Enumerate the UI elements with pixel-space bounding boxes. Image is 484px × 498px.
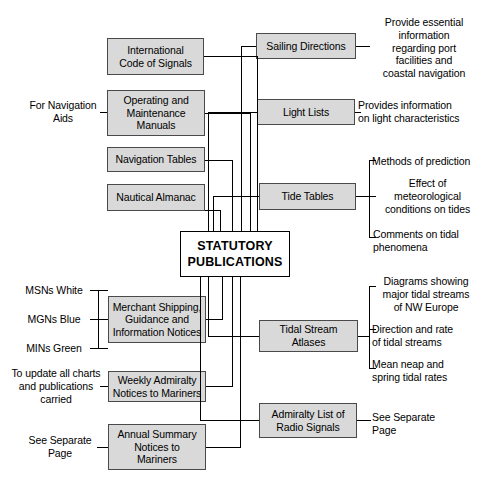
connector-lightlists-stub — [208, 112, 257, 113]
connector-sailing-stub — [241, 46, 256, 47]
note-tidal-stream-3: Mean neap and spring tidal rates — [372, 358, 484, 384]
connector-tt-note-bracket — [369, 160, 370, 237]
note-radio-signals: See Separate Page — [372, 411, 472, 437]
note-tide-tables-3: Comments on tidal phenomena — [373, 228, 484, 254]
node-tidal-stream-atlases[interactable]: Tidal Stream Atlases — [259, 320, 358, 352]
connector-omm-drop — [250, 113, 251, 231]
note-for-navigation-aids: For Navigation Aids — [22, 99, 104, 125]
connector-nav-aids — [100, 112, 107, 113]
connector-tidetables-stub — [213, 196, 259, 197]
connector-almanac-drop — [220, 210, 221, 231]
connector-annual-rise — [240, 277, 241, 447]
connector-tidalstream-rise — [208, 277, 209, 336]
connector-ics-stub — [204, 56, 258, 57]
node-nautical-almanac[interactable]: Nautical Almanac — [107, 184, 205, 211]
note-tide-tables-2: Effect of meteorological conditions on t… — [371, 177, 484, 215]
connector-notices-bracket — [98, 290, 99, 349]
connector-annual-stub — [206, 447, 241, 448]
note-mgns-blue: MGNs Blue — [18, 313, 90, 326]
connector-tsa-note-2 — [369, 329, 376, 330]
connector-mins-green — [90, 348, 108, 349]
connector-sd-note — [356, 46, 370, 47]
connector-ics-drop — [257, 56, 258, 231]
node-tide-tables[interactable]: Tide Tables — [259, 183, 356, 210]
connector-navtables-stub — [205, 160, 233, 161]
connector-tt-note-3 — [369, 237, 376, 238]
note-msns-white: MSNs White — [18, 284, 90, 297]
connector-update-charts — [100, 386, 108, 387]
connector-omm-stub — [205, 113, 251, 114]
node-admiralty-list-of-radio-signals[interactable]: Admiralty List of Radio Signals — [259, 403, 357, 438]
connector-tt-note-1 — [369, 160, 376, 161]
connector-alrs-note — [357, 420, 371, 421]
connector-weekly-stub — [206, 386, 233, 387]
note-mins-green: MINs Green — [18, 342, 90, 355]
node-weekly-admiralty-notices-to-mariners[interactable]: Weekly Admiralty Notices to Mariners — [108, 371, 206, 402]
note-tidal-stream-1: Diagrams showing major tidal streams of … — [368, 275, 484, 313]
connector-tt-note-2 — [369, 196, 376, 197]
connector-radio-stub — [200, 420, 259, 421]
node-merchant-shipping-guidance-and-information-notices[interactable]: Merchant Shipping, Guidance and Informat… — [108, 296, 206, 343]
connector-tidalstream-stub — [208, 336, 259, 337]
diagram-canvas: International Code of Signals Operating … — [0, 0, 484, 498]
node-operating-and-maintenance-manuals[interactable]: Operating and Maintenance Manuals — [107, 90, 205, 136]
connector-tidetables-drop — [213, 196, 214, 231]
connector-radio-rise — [200, 277, 201, 421]
connector-msns-white — [90, 290, 108, 291]
connector-tsa-note-3 — [369, 368, 376, 369]
connector-tsa-note-1 — [369, 286, 376, 287]
node-light-lists[interactable]: Light Lists — [257, 99, 355, 125]
connector-see-separate-left — [97, 447, 108, 448]
node-statutory-publications[interactable]: STATUTORY PUBLICATIONS — [180, 231, 290, 277]
connector-merchant-rise — [222, 277, 223, 320]
note-to-update-all-charts: To update all charts and publications ca… — [8, 367, 104, 405]
connector-tt-note-stem — [356, 196, 370, 197]
node-sailing-directions[interactable]: Sailing Directions — [256, 33, 356, 59]
connector-lightlists-drop — [208, 112, 209, 231]
node-navigation-tables[interactable]: Navigation Tables — [107, 147, 205, 172]
connector-mgns-blue — [90, 319, 108, 320]
connector-ll-note — [355, 112, 361, 113]
node-international-code-of-signals[interactable]: International Code of Signals — [107, 38, 204, 75]
note-tidal-stream-2: Direction and rate of tidal streams — [372, 323, 484, 349]
note-light-lists: Provides information on light characteri… — [358, 99, 484, 125]
connector-weekly-rise — [232, 277, 233, 387]
note-sailing-directions: Provide essential information regarding … — [367, 16, 481, 80]
node-annual-summary-notices-to-mariners[interactable]: Annual Summary Notices to Mariners — [108, 424, 206, 470]
note-see-separate-page-left: See Separate Page — [22, 434, 98, 460]
note-tide-tables-1: Methods of prediction — [372, 155, 484, 168]
connector-sailing-drop — [241, 46, 242, 231]
connector-tsa-note-bracket — [369, 286, 370, 369]
